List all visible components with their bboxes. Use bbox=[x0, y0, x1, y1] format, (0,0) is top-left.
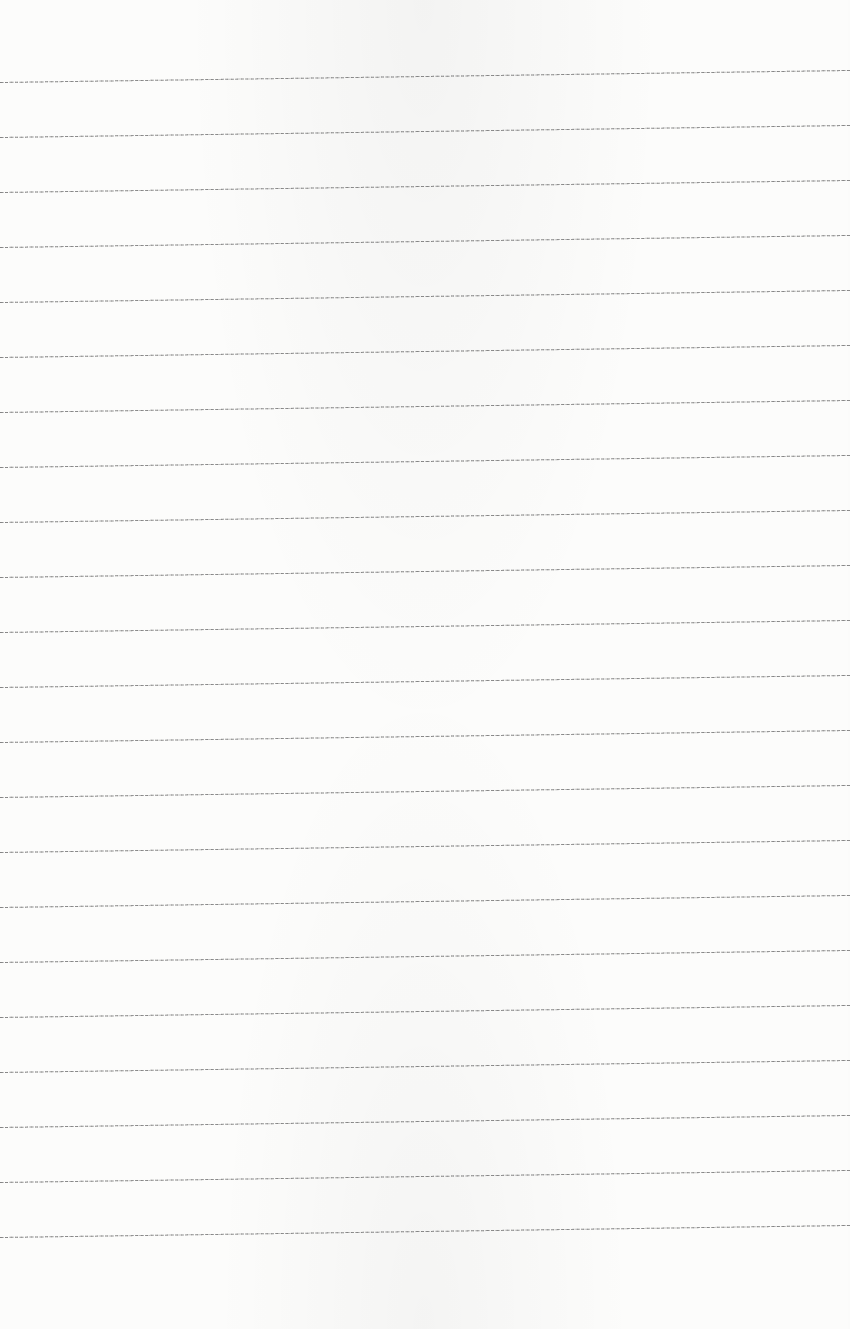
ruled-line bbox=[0, 235, 850, 248]
ruled-line bbox=[0, 345, 850, 358]
ruled-line bbox=[0, 1225, 850, 1238]
ruled-line bbox=[0, 675, 850, 688]
ruled-line bbox=[0, 730, 850, 743]
ruled-line bbox=[0, 1170, 850, 1183]
ruled-line bbox=[0, 455, 850, 468]
ruled-line bbox=[0, 510, 850, 523]
ruled-line bbox=[0, 1005, 850, 1018]
ruled-line bbox=[0, 895, 850, 908]
ruled-line bbox=[0, 785, 850, 798]
ruled-line bbox=[0, 125, 850, 138]
ruled-line bbox=[0, 620, 850, 633]
ruled-line bbox=[0, 950, 850, 963]
ruled-line bbox=[0, 1115, 850, 1128]
ruled-line bbox=[0, 180, 850, 193]
ruled-line bbox=[0, 565, 850, 578]
ruled-line bbox=[0, 70, 850, 83]
ruled-line bbox=[0, 1060, 850, 1073]
ruled-line bbox=[0, 840, 850, 853]
ruled-line bbox=[0, 400, 850, 413]
ruled-line bbox=[0, 290, 850, 303]
